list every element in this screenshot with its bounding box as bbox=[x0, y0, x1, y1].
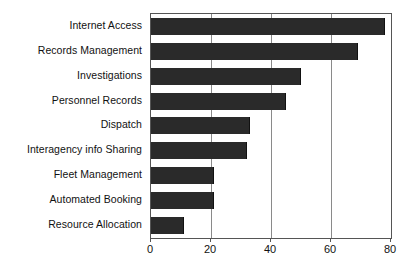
category-label: Personnel Records bbox=[52, 95, 142, 106]
bars-layer bbox=[151, 14, 391, 238]
category-label: Investigations bbox=[77, 70, 142, 81]
category-label: Internet Access bbox=[69, 20, 142, 31]
category-axis: Internet AccessRecords ManagementInvesti… bbox=[0, 13, 146, 237]
bar-slot bbox=[151, 114, 250, 139]
bar-slot bbox=[151, 138, 247, 163]
bar-slot bbox=[151, 64, 301, 89]
bar-slot bbox=[151, 39, 358, 64]
category-label: Automated Booking bbox=[50, 194, 143, 205]
bar-slot bbox=[151, 163, 214, 188]
x-tick-label: 80 bbox=[384, 243, 396, 256]
bar-slot bbox=[151, 14, 385, 39]
category-label-row: Interagency info Sharing bbox=[0, 137, 142, 162]
bar bbox=[151, 93, 286, 110]
category-label-row: Internet Access bbox=[0, 13, 142, 38]
bar bbox=[151, 68, 301, 85]
category-label-row: Dispatch bbox=[0, 113, 142, 138]
category-label-row: Automated Booking bbox=[0, 187, 142, 212]
category-label-row: Resource Allocation bbox=[0, 212, 142, 237]
x-tick-label: 0 bbox=[147, 243, 153, 256]
bar bbox=[151, 117, 250, 134]
x-tick-label: 20 bbox=[204, 243, 216, 256]
x-tick-mark bbox=[330, 238, 331, 242]
bar-slot bbox=[151, 89, 286, 114]
bar bbox=[151, 192, 214, 209]
x-tick-mark bbox=[210, 238, 211, 242]
x-tick-mark bbox=[390, 238, 391, 242]
category-label-row: Records Management bbox=[0, 38, 142, 63]
bar-slot bbox=[151, 188, 214, 213]
plot-area bbox=[150, 13, 392, 239]
bar bbox=[151, 217, 184, 234]
x-tick-label: 40 bbox=[264, 243, 276, 256]
bar bbox=[151, 142, 247, 159]
bar bbox=[151, 18, 385, 35]
x-tick-mark bbox=[150, 238, 151, 242]
x-tick-label: 60 bbox=[324, 243, 336, 256]
bar bbox=[151, 167, 214, 184]
category-label: Resource Allocation bbox=[48, 219, 142, 230]
x-tick-mark bbox=[270, 238, 271, 242]
category-label-row: Fleet Management bbox=[0, 162, 142, 187]
bar-slot bbox=[151, 213, 184, 238]
category-label: Records Management bbox=[38, 45, 142, 56]
bar bbox=[151, 43, 358, 60]
category-label: Interagency info Sharing bbox=[27, 144, 142, 155]
category-label-row: Personnel Records bbox=[0, 88, 142, 113]
category-label: Dispatch bbox=[101, 119, 142, 130]
category-label-row: Investigations bbox=[0, 63, 142, 88]
category-label: Fleet Management bbox=[54, 169, 142, 180]
value-axis: 020406080 bbox=[150, 238, 391, 260]
bar-chart-figure: Internet AccessRecords ManagementInvesti… bbox=[0, 0, 412, 269]
